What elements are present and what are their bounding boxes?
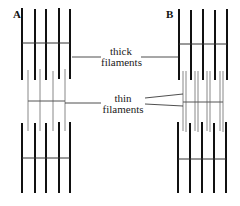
thick-label-line2: filaments <box>101 57 141 68</box>
thin-filaments-label: thin filaments <box>101 93 145 115</box>
panel-a-thick-filaments-top <box>22 8 70 80</box>
thin-label-line2: filaments <box>101 104 145 115</box>
panel-label-a: A <box>13 8 21 20</box>
panel-a-diagram <box>22 8 70 193</box>
panel-b-diagram <box>178 9 227 193</box>
panel-b-thick-filaments-bottom <box>178 122 226 193</box>
thick-filaments-label: thick filaments <box>101 46 141 68</box>
panel-label-b: B <box>166 8 173 20</box>
thin-leader-b1 <box>145 94 183 98</box>
thin-leader-b2 <box>145 104 183 106</box>
